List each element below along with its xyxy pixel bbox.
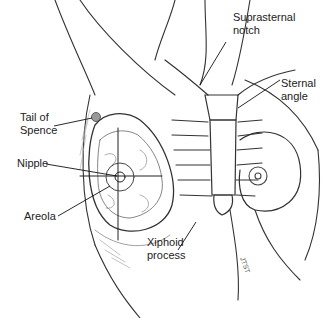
- label-areola: Areola: [24, 210, 56, 223]
- anatomy-figure: JTST Tail of Spence Nipple Areola Supras…: [0, 0, 325, 318]
- tail-of-spence-marker: [92, 113, 101, 122]
- label-sternal-angle-line1: Sternal: [281, 77, 316, 90]
- label-suprasternal-notch-line2: notch: [233, 24, 295, 37]
- label-nipple: Nipple: [17, 157, 48, 170]
- label-suprasternal-notch-line1: Suprasternal: [233, 11, 295, 24]
- label-suprasternal-notch: Suprasternal notch: [233, 11, 295, 37]
- label-tail-of-spence: Tail of Spence: [20, 111, 57, 137]
- label-tail-of-spence-line1: Tail of: [20, 111, 57, 124]
- label-tail-of-spence-line2: Spence: [20, 124, 57, 137]
- label-sternal-angle-line2: angle: [281, 90, 316, 103]
- label-xiphoid-process: Xiphoid process: [147, 236, 186, 262]
- label-sternal-angle: Sternal angle: [281, 77, 316, 103]
- breast-anatomy-illustration: JTST: [0, 0, 325, 318]
- label-xiphoid-process-line1: Xiphoid: [147, 236, 186, 249]
- label-xiphoid-process-line2: process: [147, 249, 186, 262]
- artist-signature: JTST: [239, 256, 252, 275]
